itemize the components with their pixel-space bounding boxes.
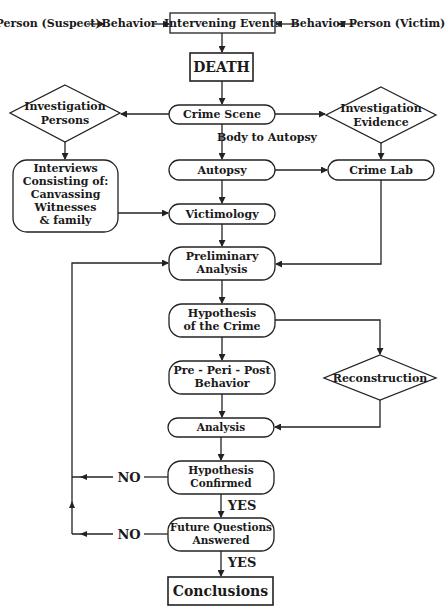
behavior-left-label: Behavior: [101, 17, 156, 30]
crime-scene-label: Crime Scene: [183, 108, 261, 121]
person-suspect-label: Person (Suspect): [0, 17, 101, 30]
no-label-1: NO: [117, 470, 140, 485]
body-to-autopsy-label: Body to Autopsy: [217, 131, 318, 144]
analysis-label: Analysis: [196, 421, 246, 433]
person-victim-label: Person (Victim): [349, 17, 445, 30]
preliminary-line-1: Preliminary: [186, 250, 259, 263]
preliminary-line-2: Analysis: [196, 263, 248, 276]
confirmed-line-2: Confirmed: [190, 477, 252, 489]
interviews-line-2: Consisting of:: [23, 175, 109, 188]
no1-arrowhead: [80, 474, 87, 480]
interviews-line-1: Interviews: [33, 162, 97, 175]
autopsy-label: Autopsy: [196, 164, 247, 177]
ppp-line-2: Behavior: [194, 377, 249, 390]
arrow-crime-lab-to-preliminary: [276, 180, 381, 264]
no-label-2: NO: [117, 527, 140, 542]
no2-arrowhead: [80, 531, 87, 537]
ppp-line-1: Pre - Peri - Post: [173, 364, 271, 377]
victimology-label: Victimology: [184, 208, 259, 221]
investigation-evidence-diamond: [326, 87, 436, 143]
conclusions-label: Conclusions: [173, 583, 268, 599]
intervening-events-label: Intervening Events: [164, 17, 281, 30]
return-loop-to-preliminary: [72, 263, 168, 534]
inv-evidence-line-1: Investigation: [340, 102, 421, 115]
interviews-line-5: & family: [39, 214, 92, 227]
confirmed-line-1: Hypothesis: [188, 464, 253, 476]
yes-label-1: YES: [227, 498, 257, 513]
inv-persons-line-2: Persons: [41, 114, 90, 127]
interviews-line-4: Witnesses: [34, 201, 97, 214]
return-loop-up-arrowhead: [69, 501, 75, 508]
hypothesis-line-1: Hypothesis: [188, 307, 256, 320]
crime-lab-label: Crime Lab: [349, 164, 413, 177]
future-line-2: Answered: [192, 534, 251, 546]
death-label: DEATH: [193, 59, 250, 75]
flowchart-diagram: Person (Suspect) Behavior Intervening Ev…: [0, 0, 445, 612]
arrow-reconstruction-to-analysis: [275, 400, 380, 427]
inv-evidence-line-2: Evidence: [353, 116, 408, 129]
reconstruction-label: Reconstruction: [333, 372, 428, 385]
inv-persons-line-1: Investigation: [24, 100, 105, 113]
yes-label-2: YES: [227, 555, 257, 570]
hypothesis-line-2: of the Crime: [183, 320, 260, 333]
arrow-hypothesis-to-reconstruction: [275, 320, 380, 354]
future-line-1: Future Questions: [170, 521, 272, 534]
behavior-right-label: Behavior: [290, 17, 345, 30]
interviews-line-3: Canvassing: [31, 188, 101, 201]
